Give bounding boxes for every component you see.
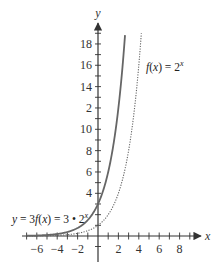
y-tick-label: 2 [86,101,92,115]
exponential-graph: −6−4−22468468102141618xyf(x) = 2xy = 3f(… [0,0,212,270]
x-axis-label: x [204,229,211,243]
y-tick-label: 14 [80,80,92,94]
axes [22,23,201,262]
f-of-x-label: f(x) = 2x [146,59,184,74]
y-tick-label: 18 [80,37,92,51]
x-tick-label: 6 [156,242,162,256]
three-f-of-x-curve [27,35,125,236]
y-tick-label: 10 [80,122,92,136]
x-tick-label: −4 [51,242,64,256]
y-tick-label: 4 [86,186,92,200]
three-f-of-x-label: y = 3f(x) = 3 • 2x [11,211,89,226]
y-axis-label: y [94,6,101,20]
x-tick-label: 8 [177,242,183,256]
labels: −6−4−22468468102141618xyf(x) = 2xy = 3f(… [11,6,211,256]
x-tick-label: 4 [136,242,142,256]
x-tick-label: −2 [71,242,84,256]
x-tick-label: −6 [30,242,43,256]
y-tick-label: 6 [86,165,92,179]
y-tick-label: 16 [80,58,92,72]
x-tick-label: 2 [115,242,121,256]
y-tick-label: 8 [86,144,92,158]
